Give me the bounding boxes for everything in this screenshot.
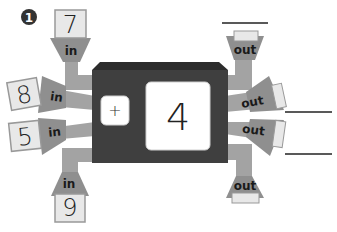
- operation-symbol: +: [108, 101, 121, 120]
- input-value: 5: [16, 122, 34, 151]
- output-right-lower: out: [241, 119, 332, 156]
- input-left-upper: 8 in: [7, 76, 66, 113]
- input-value: 7: [63, 11, 78, 39]
- output-slot: [234, 31, 258, 41]
- operand-value: 4: [166, 95, 190, 139]
- output-label: out: [234, 179, 257, 193]
- output-right-upper: out: [240, 76, 332, 112]
- input-left-lower: 5 in: [9, 118, 66, 155]
- input-label: in: [49, 89, 63, 105]
- input-label: in: [65, 44, 78, 58]
- output-slot: [232, 193, 259, 203]
- input-value: 9: [62, 194, 77, 222]
- output-label: out: [234, 43, 257, 57]
- input-top: 7 in: [50, 10, 91, 62]
- input-bottom: 9 in: [51, 172, 89, 222]
- problem-number: 1: [25, 11, 33, 25]
- output-bottom: out: [226, 176, 264, 203]
- function-machine-diagram: 1 7 in 8 in: [0, 0, 337, 232]
- input-label: in: [63, 177, 76, 191]
- input-label: in: [48, 124, 62, 139]
- function-machine: + 4: [92, 62, 228, 163]
- problem-number-badge: 1: [21, 9, 37, 25]
- output-top: out: [222, 23, 268, 60]
